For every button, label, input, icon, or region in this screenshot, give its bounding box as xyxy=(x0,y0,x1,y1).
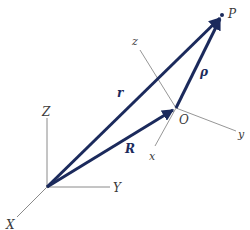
label-y: y xyxy=(237,128,245,141)
vector-rho xyxy=(176,19,220,108)
moving-frame: z y x O xyxy=(131,35,245,163)
label-x: x xyxy=(149,150,156,163)
label-X: X xyxy=(5,218,15,230)
point-P-dot xyxy=(220,13,224,17)
label-P: P xyxy=(227,7,237,21)
label-r: r xyxy=(117,86,125,100)
label-rho: ρ xyxy=(199,65,209,79)
label-z: z xyxy=(131,35,138,48)
label-Y: Y xyxy=(113,181,122,195)
label-O: O xyxy=(179,113,189,127)
relative-motion-diagram: Z Y X z y x O r R ρ P xyxy=(0,0,250,230)
axis-X xyxy=(17,187,47,217)
fixed-frame: Z Y X xyxy=(5,105,122,230)
label-Z: Z xyxy=(41,105,51,119)
point-P: P xyxy=(220,7,237,21)
label-R: R xyxy=(124,142,135,156)
vector-R xyxy=(47,110,173,187)
